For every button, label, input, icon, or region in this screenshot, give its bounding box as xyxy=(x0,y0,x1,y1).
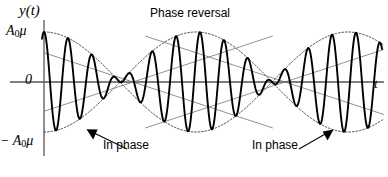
amp-pos-prefix: A xyxy=(6,23,15,38)
x-axis-title: t xyxy=(374,76,378,92)
y-tick-label-zero: 0 xyxy=(25,72,32,88)
envelope-crossing-guide-0-0 xyxy=(44,36,273,111)
in-phase-right-annotation: In phase xyxy=(252,138,298,152)
phase-reversal-annotation: Phase reversal xyxy=(150,6,230,20)
y-tick-label-positive-amplitude: A0μ xyxy=(6,23,27,39)
amp-neg-prefix: − A xyxy=(0,133,21,148)
waveform-figure: y(t) A0μ 0 − A0μ t Phase reversal In pha… xyxy=(0,0,388,177)
in-phase-left-annotation: In phase xyxy=(103,138,149,152)
y-axis-title: y(t) xyxy=(19,2,40,19)
in-phase-right-arrow xyxy=(299,133,327,149)
beat-waveform-plot xyxy=(0,0,388,177)
y-tick-label-negative-amplitude: − A0μ xyxy=(0,133,33,149)
amp-pos-suffix: μ xyxy=(20,23,27,38)
amp-neg-suffix: μ xyxy=(26,133,33,148)
